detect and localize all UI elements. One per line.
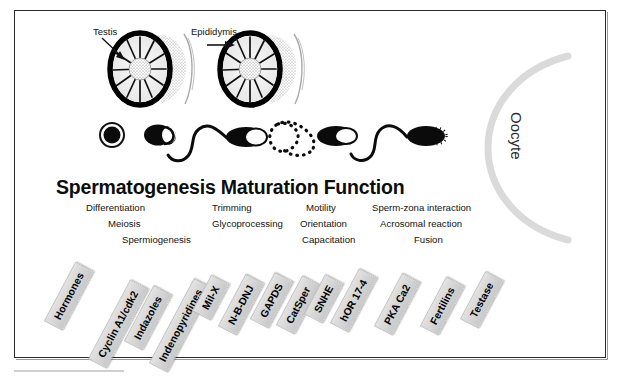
oocyte-arc bbox=[470, 48, 580, 248]
sperm-maturation-series bbox=[96, 112, 496, 174]
cell-spermatogonium bbox=[100, 123, 124, 147]
process-label-sperm-zona-interaction: Sperm-zona interaction bbox=[372, 202, 471, 213]
process-label-capacitation: Capacitation bbox=[302, 234, 355, 245]
process-label-acrosomal-reaction: Acrosomal reaction bbox=[380, 218, 462, 229]
cell-testicular-spermatozoon bbox=[168, 126, 267, 161]
process-label-motility: Motility bbox=[306, 202, 336, 213]
process-label-spermiogenesis: Spermiogenesis bbox=[122, 234, 191, 245]
process-label-differentiation: Differentiation bbox=[86, 202, 145, 213]
cell-transit-spermatozoon bbox=[270, 122, 314, 156]
figure-baseline-rule bbox=[14, 370, 124, 372]
figure-canvas: Testis Epididymis bbox=[0, 0, 620, 382]
process-label-glycoprocessing: Glycoprocessing bbox=[212, 218, 283, 229]
cell-capacitated-spermatozoon bbox=[351, 126, 447, 161]
testis-leader-arrow bbox=[98, 36, 138, 66]
callout-label-epididymis: Epididymis bbox=[191, 26, 237, 37]
epididymis-leader-arrow bbox=[205, 38, 239, 52]
figure-title: Spermatogenesis Maturation Function bbox=[56, 176, 404, 199]
process-label-trimming: Trimming bbox=[212, 202, 252, 213]
oocyte-label: Oocyte bbox=[508, 112, 525, 160]
process-label-meiosis: Meiosis bbox=[108, 218, 141, 229]
process-label-orientation: Orientation bbox=[300, 218, 347, 229]
process-label-fusion: Fusion bbox=[414, 234, 443, 245]
cell-epididymal-spermatozoon bbox=[317, 126, 357, 146]
cell-round-spermatid bbox=[144, 125, 176, 146]
